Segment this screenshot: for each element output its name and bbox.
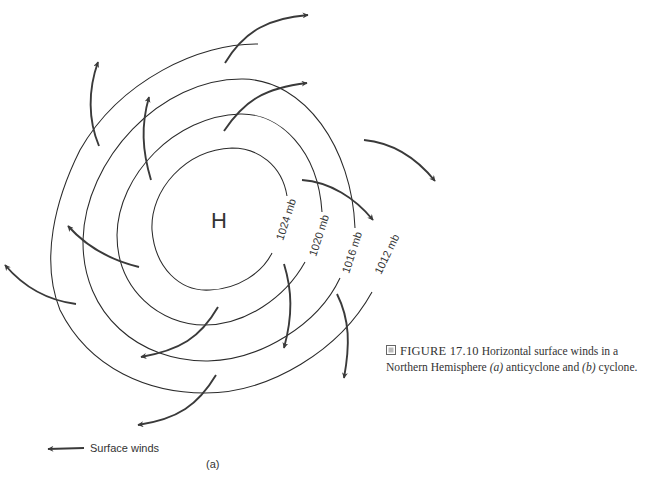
wind-arrow bbox=[225, 15, 308, 63]
figure-caption: FIGURE 17.10 Horizontal surface winds in… bbox=[386, 343, 656, 376]
caption-text-2: anticyclone and bbox=[503, 361, 582, 374]
anticyclone-diagram: 1024 mb 1020 mb 1016 mb 1012 mb H Surfac… bbox=[0, 0, 656, 485]
isobar-label-1024: 1024 mb bbox=[273, 197, 298, 241]
caption-text-3: cyclone. bbox=[596, 361, 638, 374]
figure-box-icon bbox=[386, 345, 396, 355]
wind-arrow bbox=[68, 226, 139, 267]
legend-label: Surface winds bbox=[90, 442, 160, 454]
wind-arrow bbox=[141, 307, 218, 357]
isobar-label-1016: 1016 mb bbox=[339, 230, 364, 274]
wind-arrow bbox=[138, 375, 216, 425]
wind-arrow bbox=[364, 140, 435, 181]
isobar-label-1020: 1020 mb bbox=[306, 213, 331, 257]
caption-ref-a: (a) bbox=[490, 361, 504, 374]
wind-arrow bbox=[5, 265, 76, 304]
figure-number: FIGURE 17.10 bbox=[400, 344, 479, 358]
wind-arrow bbox=[91, 62, 99, 146]
wind-arrow bbox=[302, 180, 373, 220]
panel-label: (a) bbox=[206, 458, 219, 470]
wind-arrow bbox=[224, 83, 307, 131]
high-pressure-label: H bbox=[211, 208, 227, 233]
legend-arrow-icon bbox=[48, 448, 84, 449]
wind-arrow bbox=[284, 264, 290, 348]
isobar-label-1012: 1012 mb bbox=[372, 232, 402, 276]
wind-arrow bbox=[144, 97, 151, 180]
caption-ref-b: (b) bbox=[582, 361, 596, 374]
